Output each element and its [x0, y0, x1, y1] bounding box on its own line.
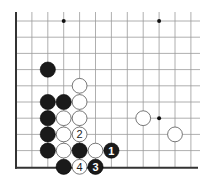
move-number: 3 — [92, 161, 98, 173]
move-number: 4 — [77, 161, 83, 173]
white-stone — [56, 111, 71, 126]
black-stone — [56, 159, 71, 174]
black-stone: 1 — [104, 143, 119, 158]
star-point-icon — [157, 116, 161, 120]
black-stone — [40, 127, 55, 142]
star-point-icon — [157, 19, 161, 23]
black-stone: 3 — [88, 159, 103, 174]
black-stone — [56, 94, 71, 109]
black-stone — [40, 111, 55, 126]
move-number: 2 — [77, 128, 83, 140]
white-stone — [56, 127, 71, 142]
black-stone — [40, 143, 55, 158]
white-stone: 4 — [72, 159, 87, 174]
white-stone: 2 — [72, 127, 87, 142]
black-stone — [72, 143, 87, 158]
go-board: 2143 — [0, 0, 212, 186]
white-stone — [56, 143, 71, 158]
black-stone — [40, 62, 55, 77]
black-stone — [40, 94, 55, 109]
white-stone — [72, 111, 87, 126]
white-stone — [72, 95, 87, 110]
white-stone — [72, 78, 87, 93]
star-point-icon — [62, 19, 66, 23]
move-number: 1 — [108, 145, 114, 157]
white-stone — [88, 143, 103, 158]
white-stone — [136, 111, 151, 126]
white-stone — [168, 127, 183, 142]
